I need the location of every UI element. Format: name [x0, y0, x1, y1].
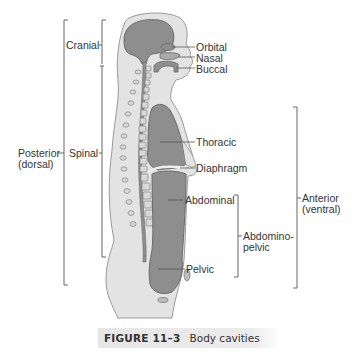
- label-pelvic: Pelvic: [186, 264, 214, 275]
- label-cranial: Cranial: [66, 40, 99, 51]
- body-cavities-diagram: [0, 0, 359, 359]
- label-abdominopelvic: Abdomino- pelvic: [243, 231, 294, 253]
- label-abdominal: Abdominal: [185, 195, 235, 206]
- pelvic-organ-2: [158, 298, 168, 303]
- label-anterior-line2: (ventral): [302, 204, 341, 215]
- label-thoracic: Thoracic: [196, 137, 236, 148]
- figure-number: FIGURE 11–3: [104, 332, 181, 344]
- figure-title: Body cavities: [190, 332, 260, 344]
- label-posterior: Posterior (dorsal): [18, 148, 60, 170]
- label-diaphragm: Diaphragm: [196, 163, 247, 174]
- label-buccal: Buccal: [196, 64, 228, 75]
- figure-caption: FIGURE 11–3 Body cavities: [98, 328, 280, 348]
- abdominopelvic-cavity: [149, 171, 186, 294]
- label-spinal: Spinal: [69, 148, 98, 159]
- label-anterior: Anterior (ventral): [302, 193, 341, 215]
- label-abdominopelvic-line2: pelvic: [243, 242, 294, 253]
- thoracic-cavity: [147, 104, 186, 170]
- label-posterior-line2: (dorsal): [18, 159, 60, 170]
